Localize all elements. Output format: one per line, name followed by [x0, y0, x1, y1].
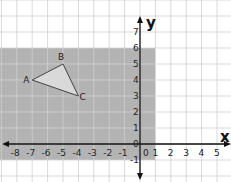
x-tick-label: -7 [26, 148, 35, 158]
x-tick-label: 1 [152, 148, 158, 158]
x-tick-label: 5 [214, 148, 220, 158]
y-tick-label: 7 [133, 27, 139, 37]
vertex-label-c: C [79, 92, 85, 102]
vertex-label-b: B [58, 52, 64, 62]
y-tick-label: -1 [130, 155, 139, 165]
y-tick-label: 6 [133, 43, 139, 53]
x-tick-label: -8 [11, 148, 20, 158]
x-tick-label: -5 [57, 148, 66, 158]
y-tick-label: 0 [133, 139, 139, 149]
x-tick-label: -3 [88, 148, 97, 158]
y-tick-label: 5 [133, 59, 139, 69]
x-axis-label: x [220, 128, 230, 146]
y-axis-up-arrow-icon [137, 16, 143, 23]
x-tick-label: 0 [143, 148, 149, 158]
y-tick-label: 4 [133, 75, 139, 85]
x-tick-label: 2 [168, 148, 174, 158]
y-axis-label: y [146, 14, 156, 32]
x-tick-label: -6 [42, 148, 51, 158]
plot-svg: yx-8-7-6-5-4-3-2-1123450-101234567ABC [0, 0, 231, 182]
x-tick-label: -2 [103, 148, 112, 158]
y-tick-label: 1 [133, 123, 139, 133]
x-tick-label: 3 [183, 148, 189, 158]
x-tick-label: -4 [72, 148, 81, 158]
vertex-label-a: A [23, 75, 30, 85]
y-axis-down-arrow-icon [137, 173, 143, 180]
x-tick-label: 4 [199, 148, 205, 158]
coordinate-plane: yx-8-7-6-5-4-3-2-1123450-101234567ABC [0, 0, 231, 182]
y-tick-label: 3 [133, 91, 139, 101]
x-tick-label: -1 [119, 148, 128, 158]
y-tick-label: 2 [133, 107, 139, 117]
